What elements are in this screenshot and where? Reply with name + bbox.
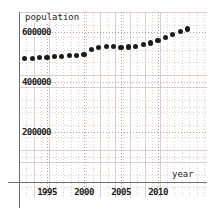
- x-axis-title: year: [171, 170, 195, 179]
- y-axis-title: population: [24, 13, 80, 22]
- y-axis-tick-label: 600000: [21, 28, 52, 37]
- data-point: [111, 44, 116, 49]
- data-point: [155, 38, 160, 43]
- y-axis-tick-label: 400000: [21, 78, 52, 87]
- gridline-vertical: [121, 12, 122, 198]
- data-point: [81, 52, 86, 57]
- data-point: [89, 47, 94, 52]
- data-point: [74, 53, 79, 58]
- gridline-vertical: [47, 12, 48, 198]
- gridline-vertical: [84, 12, 85, 198]
- x-axis-line: [8, 182, 207, 183]
- y-axis-tick-label: 200000: [21, 128, 52, 137]
- x-axis-tick-label: 1995: [37, 188, 57, 197]
- x-axis-tick-label: 2000: [74, 188, 94, 197]
- data-point: [118, 45, 123, 50]
- x-axis-tick-label: 2005: [111, 188, 131, 197]
- population-year-chart: 200000400000600000 1995200020052010 popu…: [0, 0, 211, 217]
- y-axis-line: [19, 12, 20, 208]
- data-point: [148, 40, 153, 45]
- data-point: [126, 44, 131, 49]
- x-axis-tick-label: 2010: [148, 188, 168, 197]
- data-point: [44, 55, 49, 60]
- data-point: [30, 56, 35, 61]
- data-point: [185, 26, 190, 31]
